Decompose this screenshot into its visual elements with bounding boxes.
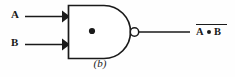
inversion-bubble-icon [130, 28, 138, 36]
input-b-label: B [11, 37, 18, 48]
output-operand-left: A [196, 26, 204, 37]
output-overbar [196, 24, 227, 25]
output-operator-dot-icon [207, 30, 211, 34]
and-operator-dot-icon [89, 28, 95, 34]
input-a-wire-group [25, 11, 70, 23]
input-b-wire-group [25, 39, 70, 51]
and-gate-body [69, 6, 131, 59]
input-a-label: A [11, 9, 19, 20]
figure-caption: (b) [0, 58, 200, 69]
output-operand-right: B [214, 26, 221, 37]
output-expression: AB [196, 27, 221, 38]
nand-gate-figure: A B (b) AB [0, 0, 235, 77]
